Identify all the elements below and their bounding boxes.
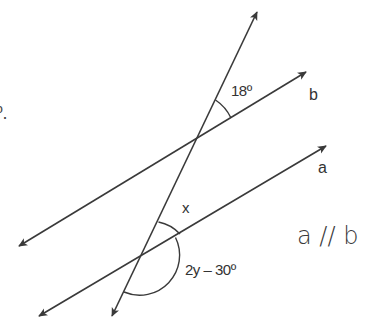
angle-label-2y-minus-30: 2y – 30º bbox=[185, 262, 236, 277]
angle-label-18: 18º bbox=[231, 83, 252, 98]
parallel-statement: a // b bbox=[297, 224, 358, 248]
angle-arc-x bbox=[159, 222, 181, 234]
angle-arc-18 bbox=[216, 100, 232, 118]
line-label-a: a bbox=[318, 160, 327, 176]
line-a bbox=[39, 146, 326, 316]
angle-label-x: x bbox=[182, 200, 189, 215]
text-fragment: º. bbox=[0, 104, 8, 122]
line-b bbox=[19, 72, 306, 246]
angle-arc-2y-minus-30 bbox=[124, 238, 180, 296]
line-label-b: b bbox=[309, 87, 318, 103]
